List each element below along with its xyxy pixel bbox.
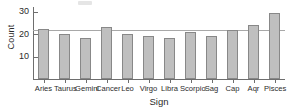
x-tick-mark — [65, 80, 66, 83]
y-tick-label: 30 — [13, 7, 29, 16]
bar — [122, 34, 133, 79]
x-tick-label: Scorpio — [180, 84, 201, 94]
x-tick-mark — [233, 80, 234, 83]
x-tick-mark — [170, 80, 171, 83]
x-tick-label: Virgo — [138, 84, 159, 94]
bar — [38, 29, 49, 79]
x-tick-label: Cap — [222, 84, 243, 94]
x-axis-tick-labels: AriesTaurusGeminiCancerLeoVirgoLibraScor… — [33, 84, 285, 96]
x-tick-mark — [86, 80, 87, 83]
bar-chart-figure: Count 102030 AriesTaurusGeminiCancerLeoV… — [0, 0, 289, 111]
bar — [164, 38, 175, 79]
x-tick-mark — [212, 80, 213, 83]
x-tick-label: Cancer — [96, 84, 117, 94]
y-tick-mark — [34, 12, 38, 13]
y-axis-tick-labels: 102030 — [13, 0, 29, 111]
x-tick-label: Aries — [33, 84, 54, 94]
scan-artifact — [78, 1, 92, 5]
x-tick-label: Pisces — [264, 84, 285, 94]
plot-area — [33, 7, 285, 79]
x-tick-mark — [275, 80, 276, 83]
x-tick-mark — [149, 80, 150, 83]
bar — [227, 30, 238, 80]
bar — [248, 25, 259, 79]
x-axis-line — [33, 79, 285, 80]
bar — [101, 27, 112, 79]
x-tick-mark — [107, 80, 108, 83]
bar — [143, 36, 154, 79]
x-tick-mark — [254, 80, 255, 83]
x-tick-label: Libra — [159, 84, 180, 94]
y-tick-mark — [34, 34, 38, 35]
bar — [59, 34, 70, 79]
x-tick-mark — [128, 80, 129, 83]
bar — [269, 13, 280, 79]
bar — [185, 32, 196, 79]
x-tick-mark — [191, 80, 192, 83]
x-tick-label: Gemini — [75, 84, 96, 94]
x-tick-label: Aqr — [243, 84, 264, 94]
y-tick-mark — [34, 57, 38, 58]
x-tick-label: Taurus — [54, 84, 75, 94]
bar — [80, 38, 91, 79]
x-axis-title: Sign — [33, 96, 285, 107]
x-tick-mark — [44, 80, 45, 83]
x-tick-label: Leo — [117, 84, 138, 94]
y-tick-label: 20 — [13, 30, 29, 39]
bar — [206, 36, 217, 79]
x-tick-label: Sag — [201, 84, 222, 94]
y-tick-label: 10 — [13, 52, 29, 61]
